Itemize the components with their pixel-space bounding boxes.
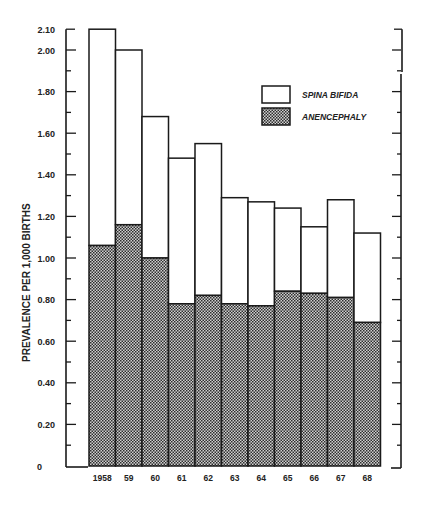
y-tick-label: 0.60: [37, 337, 55, 347]
bar-segment-anencephaly: [116, 225, 143, 466]
bar-segment-spina-bifida: [301, 227, 328, 294]
legend-label-spina-bifida: SPINA BIFIDA: [302, 90, 358, 100]
bar-67: [328, 200, 355, 466]
y-tick-label: 1.60: [37, 129, 55, 139]
legend-swatch-spina-bifida: [262, 86, 290, 103]
bar-65: [275, 208, 302, 466]
bar-segment-spina-bifida: [89, 29, 116, 245]
legend-label-anencephaly: ANENCEPHALY: [301, 112, 367, 122]
y-tick-label: 1.40: [37, 170, 55, 180]
bar-segment-spina-bifida: [222, 198, 249, 304]
bar-1958: [89, 29, 116, 466]
bar-62: [195, 144, 222, 466]
bar-segment-anencephaly: [142, 258, 169, 466]
y-tick-label: 1.80: [37, 87, 55, 97]
legend-swatch-anencephaly: [262, 108, 290, 125]
y-tick-label: 0: [37, 462, 42, 472]
y-tick-label: 1.00: [37, 254, 55, 264]
x-tick-label: 67: [336, 473, 346, 483]
x-tick-label: 59: [124, 473, 134, 483]
bar-63: [222, 198, 249, 466]
bar-segment-anencephaly: [328, 298, 355, 466]
x-tick-label: 60: [151, 473, 161, 483]
bar-segment-spina-bifida: [169, 158, 196, 304]
x-tick-label: 64: [257, 473, 267, 483]
bar-segment-anencephaly: [169, 304, 196, 466]
y-tick-label: 2.10: [37, 25, 55, 35]
bar-segment-spina-bifida: [142, 117, 169, 258]
y-tick-label: 0.40: [37, 378, 55, 388]
x-tick-label: 66: [310, 473, 320, 483]
legend: SPINA BIFIDA ANENCEPHALY: [262, 86, 367, 125]
bar-segment-spina-bifida: [275, 208, 302, 291]
x-tick-label: 61: [177, 473, 187, 483]
y-tick-label: 0.20: [37, 420, 55, 430]
bar-66: [301, 227, 328, 466]
bar-61: [169, 158, 196, 466]
bar-68: [354, 233, 381, 466]
bar-59: [116, 50, 143, 466]
bar-segment-anencephaly: [354, 322, 381, 466]
bar-segment-anencephaly: [248, 306, 275, 466]
bar-segment-anencephaly: [89, 246, 116, 466]
x-tick-label: 62: [204, 473, 214, 483]
y-tick-label: 0.80: [37, 295, 55, 305]
bar-segment-spina-bifida: [248, 202, 275, 306]
y-axis-right: [391, 29, 402, 468]
bar-segment-anencephaly: [195, 295, 222, 466]
x-tick-label: 1958: [93, 473, 112, 483]
y-tick-label: 2.00: [37, 46, 55, 56]
bar-segment-spina-bifida: [328, 200, 355, 298]
bar-segment-spina-bifida: [354, 233, 381, 322]
bar-segment-anencephaly: [275, 291, 302, 466]
bar-60: [142, 117, 169, 466]
y-axis-left: 00.200.400.600.801.001.201.401.601.802.0…: [37, 25, 88, 472]
x-tick-label: 68: [363, 473, 373, 483]
bar-segment-anencephaly: [301, 293, 328, 466]
y-axis-label: PREVALENCE PER 1,000 BIRTHS: [21, 203, 32, 362]
bar-segment-anencephaly: [222, 304, 249, 466]
bar-64: [248, 202, 275, 466]
x-axis-labels: 195859606162636465666768: [93, 473, 372, 483]
bar-segment-spina-bifida: [116, 50, 143, 225]
y-tick-label: 1.20: [37, 212, 55, 222]
x-tick-label: 63: [230, 473, 240, 483]
stacked-bar-chart: 00.200.400.600.801.001.201.401.601.802.0…: [0, 0, 425, 514]
x-tick-label: 65: [283, 473, 293, 483]
bar-segment-spina-bifida: [195, 144, 222, 296]
